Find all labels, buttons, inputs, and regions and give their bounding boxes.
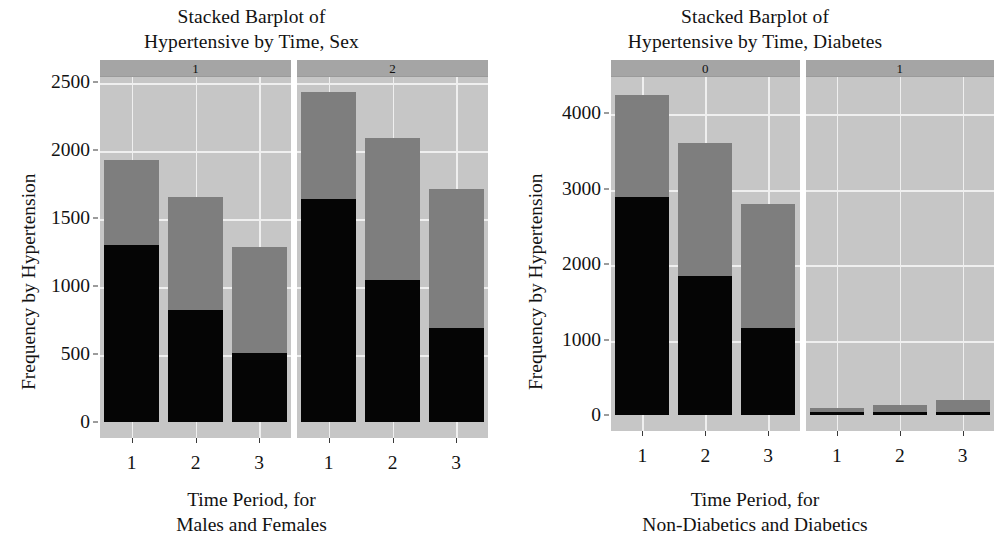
chart-sex-facet-2-xtick-2: 2 (388, 452, 398, 474)
bar-sex1-t3-nonhyp (232, 247, 287, 353)
chart-sex-facet-2: 2 (297, 60, 488, 438)
bar-diab1-t2-hyp (873, 412, 927, 415)
xtickmark-3 (963, 431, 964, 436)
chart-sex-ytick-500: 500 (28, 343, 90, 365)
chart-sex-ytick-0: 0 (28, 411, 90, 433)
chart-sex-ytickmark-0 (93, 422, 98, 423)
chart-diabetes-xtick-labels: 1 2 3 1 2 3 (611, 445, 994, 471)
bar-sex1-t2-nonhyp (168, 197, 223, 310)
gridline-x-2 (900, 77, 902, 431)
chart-sex-title-line1: Stacked Barplot of (177, 6, 325, 27)
chart-diabetes-facet-0: 0 (611, 60, 800, 431)
chart-diabetes-facet-0-xtick-1: 1 (637, 445, 647, 467)
bar-diab0-t3-nonhyp (741, 204, 795, 328)
chart-diabetes-facet-0-xtick-2: 2 (700, 445, 710, 467)
xtickmark-1 (329, 438, 330, 443)
xtickmark-2 (705, 431, 706, 436)
figure-root: Stacked Barplot of Hypertensive by Time,… (0, 0, 1007, 539)
bar-diab1-t3 (936, 400, 990, 415)
chart-diabetes-ytick-1000: 1000 (539, 329, 601, 351)
chart-sex-ytickmark-500 (93, 354, 98, 355)
bar-sex2-t2-nonhyp (365, 138, 420, 280)
chart-sex-plot-area: 1 (100, 60, 488, 438)
chart-sex-ytickmark-2000 (93, 150, 98, 151)
chart-sex-ytickmark-1000 (93, 286, 98, 287)
bar-diab0-t1 (615, 95, 669, 415)
chart-diabetes-facet-0-xtick-3: 3 (763, 445, 773, 467)
chart-sex-facet-1-xtick-3: 3 (254, 452, 264, 474)
bar-sex1-t1-nonhyp (104, 160, 159, 245)
bar-diab1-t2-nonhyp (873, 405, 927, 412)
xtickmark-2 (196, 438, 197, 443)
chart-diabetes-ytickmark-4000 (604, 113, 609, 114)
chart-diabetes-facet-1-xlabels: 1 2 3 (806, 445, 995, 471)
chart-diabetes-facet-1-body (806, 77, 995, 431)
chart-diabetes-ytickmark-3000 (604, 189, 609, 190)
gridline-x-1 (837, 77, 839, 431)
chart-diabetes-ytickmark-0 (604, 415, 609, 416)
chart-sex-title-line2: Hypertensive by Time, Sex (0, 29, 503, 54)
bar-sex1-t3-hyp (232, 353, 287, 422)
chart-diabetes-ytickmark-2000 (604, 264, 609, 265)
bar-diab0-t2-nonhyp (678, 143, 732, 276)
chart-sex-facet-1-label: 1 (192, 62, 199, 75)
bar-sex2-t3 (429, 189, 484, 422)
chart-diabetes-facet-0-body (611, 77, 800, 431)
bar-sex2-t1 (301, 92, 356, 422)
chart-diabetes-facet-0-strip: 0 (611, 60, 800, 77)
bar-diab1-t3-nonhyp (936, 400, 990, 412)
chart-diabetes-x-axis-title-line1: Time Period, for (691, 489, 820, 510)
chart-sex-facet-1-body (100, 77, 291, 438)
chart-diabetes-x-axis-title-line2: Non-Diabetics and Diabetics (642, 514, 867, 535)
chart-diabetes-ytick-4000: 4000 (539, 102, 601, 124)
bar-sex1-t1-hyp (104, 245, 159, 422)
chart-sex-facet-1-xtick-1: 1 (127, 452, 137, 474)
bar-sex2-t3-nonhyp (429, 189, 484, 328)
chart-sex-facet-2-strip: 2 (297, 60, 488, 77)
bar-diab0-t3 (741, 204, 795, 415)
chart-diabetes-facet-1-strip: 1 (806, 60, 995, 77)
xtickmark-2 (393, 438, 394, 443)
bar-diab0-t1-hyp (615, 197, 669, 415)
xtickmark-1 (837, 431, 838, 436)
chart-diabetes-y-axis-label: Frequency by Hypertension (525, 173, 547, 390)
chart-diabetes-facet-1-xtick-3: 3 (958, 445, 968, 467)
chart-diabetes-title-line1: Stacked Barplot of (681, 6, 829, 27)
chart-diabetes-title-line2: Hypertensive by Time, Diabetes (503, 29, 1007, 54)
chart-sex-facet-2-xlabels: 1 2 3 (297, 452, 488, 478)
chart-diabetes-facet-1-xtick-2: 2 (895, 445, 905, 467)
chart-diabetes-ytick-3000: 3000 (539, 178, 601, 200)
bar-diab1-t1-hyp (810, 412, 864, 415)
xtickmark-1 (132, 438, 133, 443)
chart-sex-xtick-labels: 1 2 3 1 2 3 (100, 452, 488, 478)
chart-diabetes-plot-area: 0 (611, 60, 994, 431)
bar-sex2-t2 (365, 138, 420, 422)
bar-sex1-t1 (104, 160, 159, 422)
chart-diabetes-facet-0-xlabels: 1 2 3 (611, 445, 800, 471)
chart-diabetes: Stacked Barplot of Hypertensive by Time,… (503, 0, 1007, 539)
chart-sex: Stacked Barplot of Hypertensive by Time,… (0, 0, 503, 539)
xtickmark-3 (768, 431, 769, 436)
chart-sex-facet-1-xtick-2: 2 (191, 452, 201, 474)
chart-sex-facet-2-xtick-1: 1 (324, 452, 334, 474)
bar-sex2-t1-hyp (301, 199, 356, 422)
chart-sex-ytick-2500: 2500 (28, 71, 90, 93)
chart-sex-x-axis-title-line1: Time Period, for (187, 489, 316, 510)
bar-diab1-t1 (810, 408, 864, 415)
bar-diab1-t3-hyp (936, 412, 990, 415)
bar-sex2-t3-hyp (429, 328, 484, 422)
chart-diabetes-title: Stacked Barplot of Hypertensive by Time,… (503, 4, 1007, 54)
bar-sex1-t2-hyp (168, 310, 223, 422)
xtickmark-2 (900, 431, 901, 436)
chart-sex-ytickmark-1500 (93, 218, 98, 219)
chart-sex-x-axis-title: Time Period, for Males and Females (0, 487, 503, 537)
bar-sex2-t1-nonhyp (301, 92, 356, 199)
chart-sex-facet-2-label: 2 (389, 62, 396, 75)
chart-diabetes-ytickmark-1000 (604, 340, 609, 341)
chart-diabetes-ytick-2000: 2000 (539, 253, 601, 275)
bar-sex1-t2 (168, 197, 223, 422)
bar-sex1-t3 (232, 247, 287, 422)
chart-sex-facet-2-body (297, 77, 488, 438)
xtickmark-3 (456, 438, 457, 443)
chart-sex-title: Stacked Barplot of Hypertensive by Time,… (0, 4, 503, 54)
